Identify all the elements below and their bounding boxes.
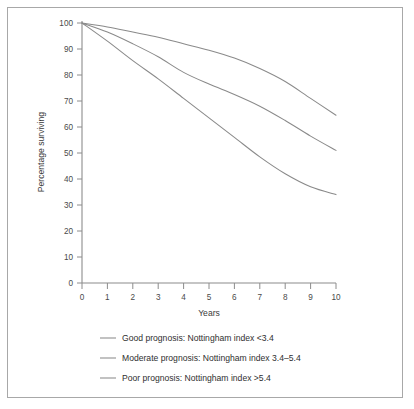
survival-curves <box>82 23 336 195</box>
x-tick-label: 4 <box>181 293 186 302</box>
survival-chart: 0102030405060708090100 012345678910 Year… <box>0 0 414 409</box>
y-tick-label: 0 <box>68 279 73 288</box>
y-tick-label: 70 <box>64 97 74 106</box>
y-axis-tick-labels: 0102030405060708090100 <box>59 19 73 288</box>
legend-item-2: Poor prognosis: Nottingham index >5.4 <box>100 373 271 383</box>
y-tick-label: 30 <box>64 201 74 210</box>
x-tick-label: 10 <box>331 293 341 302</box>
y-axis-ticks <box>77 23 82 283</box>
legend-item-0: Good prognosis: Nottingham index <3.4 <box>100 333 274 343</box>
x-tick-label: 8 <box>283 293 288 302</box>
curve-series-1 <box>82 23 336 150</box>
x-tick-label: 7 <box>258 293 263 302</box>
y-tick-label: 80 <box>64 71 74 80</box>
legend-label: Moderate prognosis: Nottingham index 3.4… <box>122 353 301 363</box>
x-tick-label: 6 <box>232 293 237 302</box>
y-tick-label: 90 <box>64 45 74 54</box>
y-tick-label: 60 <box>64 123 74 132</box>
x-axis-title: Years <box>198 308 220 318</box>
x-tick-label: 0 <box>80 293 85 302</box>
y-axis: 0102030405060708090100 <box>59 19 82 288</box>
legend-item-1: Moderate prognosis: Nottingham index 3.4… <box>100 353 301 363</box>
curve-series-0 <box>82 23 336 115</box>
x-axis-tick-labels: 012345678910 <box>80 293 341 302</box>
chart-legend: Good prognosis: Nottingham index <3.4Mod… <box>100 333 301 383</box>
legend-label: Poor prognosis: Nottingham index >5.4 <box>122 373 271 383</box>
y-axis-title: Percentage surviving <box>36 112 46 192</box>
y-tick-label: 20 <box>64 227 74 236</box>
x-tick-label: 9 <box>308 293 313 302</box>
y-tick-label: 50 <box>64 149 74 158</box>
x-tick-label: 2 <box>131 293 136 302</box>
x-tick-label: 3 <box>156 293 161 302</box>
legend-label: Good prognosis: Nottingham index <3.4 <box>122 333 274 343</box>
x-tick-label: 1 <box>105 293 110 302</box>
x-tick-label: 5 <box>207 293 212 302</box>
x-axis-ticks <box>82 283 336 289</box>
y-tick-label: 10 <box>64 253 74 262</box>
y-tick-label: 40 <box>64 175 74 184</box>
y-tick-label: 100 <box>59 19 73 28</box>
x-axis: 012345678910 <box>80 283 341 302</box>
curve-series-2 <box>82 23 336 195</box>
